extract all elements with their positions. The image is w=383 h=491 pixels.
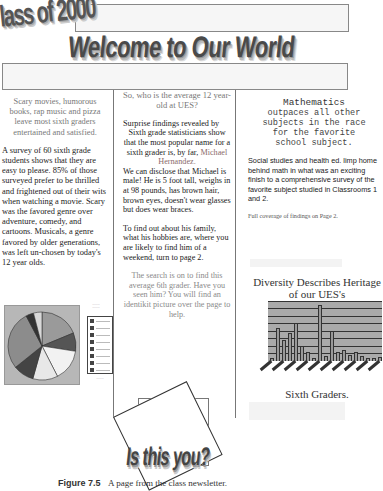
grid-line (268, 323, 382, 324)
middle-description: We can disclose that Michael is male! He… (123, 167, 231, 215)
bar (300, 346, 304, 361)
legend-swatch (90, 333, 94, 337)
legend-item (90, 339, 110, 345)
grid-line (268, 331, 382, 332)
left-column: Scary movies, humorous books, rap music … (2, 97, 108, 268)
right-shaded-box (250, 259, 342, 267)
legend-item (90, 332, 110, 338)
grid-line (268, 301, 382, 302)
bottom-banner-box (2, 63, 348, 90)
bar-chart-title: Diversity Describes Heritage of our UES'… (252, 276, 382, 300)
x-axis-label (308, 360, 321, 371)
legend-label (96, 328, 110, 329)
x-axis-label (296, 360, 309, 371)
column-divider-right (235, 90, 236, 418)
pie-chart (4, 305, 80, 385)
legend-label (96, 370, 110, 371)
pie-chart-source: ——— (88, 377, 112, 380)
x-axis-label (320, 360, 333, 371)
figure-caption: Figure 7.5 A page from the class newslet… (58, 478, 227, 488)
x-axis-label (344, 360, 357, 371)
bar (294, 323, 298, 361)
pie-chart-legend (87, 316, 113, 374)
x-axis-label (332, 360, 345, 371)
bar-chart (268, 301, 382, 361)
math-body: Social studies and health ed. limp home … (248, 156, 380, 204)
middle-intro: Surprise findings revealed by (123, 119, 231, 129)
legend-item (90, 346, 110, 352)
grid-line (268, 308, 382, 309)
column-divider-left (113, 90, 114, 418)
bar-chart-footer: Sixth Graders. (252, 388, 382, 400)
legend-swatch (90, 354, 94, 358)
coverage-note: Full coverage of findings on Page 2. (248, 212, 380, 220)
middle-column: So, who is the average 12 year-old at UE… (123, 90, 231, 319)
legend-swatch (90, 368, 94, 372)
caption-text: A page from the class newsletter. (108, 478, 227, 488)
legend-item (90, 318, 110, 324)
legend-label (96, 342, 110, 343)
legend-swatch (90, 326, 94, 330)
bar (336, 352, 340, 361)
welcome-wordart: Welcome to Our World (66, 30, 296, 65)
legend-swatch (90, 319, 94, 323)
right-bottom-shaded-box (249, 402, 345, 420)
legend-item (90, 353, 110, 359)
x-axis-label (260, 360, 273, 371)
legend-swatch (90, 347, 94, 351)
is-this-you-wordart: Is this you? (125, 443, 211, 472)
legend-swatch (90, 340, 94, 344)
x-axis-label (368, 360, 381, 371)
x-axis-label (356, 360, 369, 371)
legend-item (90, 360, 110, 366)
legend-item (90, 325, 110, 331)
math-subheadline: outpaces all other subjects in the race … (248, 108, 380, 148)
legend-label (96, 363, 110, 364)
bar (282, 340, 286, 361)
middle-search: The search is on to find this average 6t… (123, 271, 231, 319)
legend-label (96, 349, 110, 350)
bar (318, 305, 322, 361)
top-banner-box (75, 4, 349, 32)
middle-stat: Sixth grade statisticians show that the … (123, 128, 231, 166)
left-lead: Scary movies, humorous books, rap music … (2, 97, 108, 138)
x-axis-label (272, 360, 285, 371)
bar (330, 331, 334, 361)
caption-label: Figure 7.5 (58, 478, 101, 488)
legend-swatch (90, 361, 94, 365)
middle-more: To find out about his family, what his h… (123, 224, 231, 262)
bar (288, 333, 292, 361)
pie-chart-graphic (5, 306, 79, 384)
left-body: A survey of 60 sixth grade students show… (2, 146, 108, 268)
bar (324, 356, 328, 361)
pie-chart-title: —————— (80, 303, 112, 309)
right-column: Mathematics outpaces all other subjects … (248, 98, 380, 220)
bar (276, 328, 280, 361)
grid-line (268, 316, 382, 317)
grid-line (268, 338, 382, 339)
bar (348, 355, 352, 361)
bar (360, 356, 364, 361)
legend-label (96, 321, 110, 322)
x-axis-label (284, 360, 297, 371)
legend-label (96, 356, 110, 357)
math-headline: Mathematics (248, 98, 380, 108)
legend-item (90, 367, 110, 373)
middle-heading: So, who is the average 12 year-old at UE… (123, 90, 231, 111)
legend-label (96, 335, 110, 336)
